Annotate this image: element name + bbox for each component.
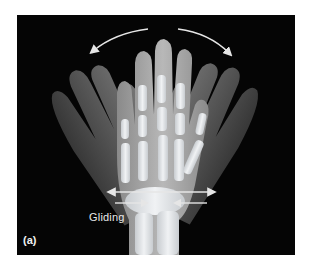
figure-frame: Gliding (a) [17, 15, 295, 255]
hand-illustration [17, 15, 295, 255]
panel-label: (a) [23, 234, 36, 246]
center-hand [117, 39, 209, 255]
gliding-label: Gliding [89, 211, 125, 223]
arc-arrow-left-icon [93, 29, 148, 51]
